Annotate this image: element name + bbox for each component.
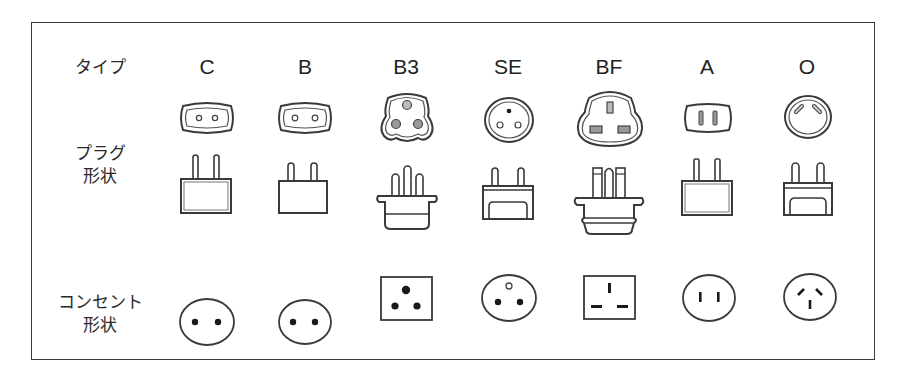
type-label-o: O: [767, 55, 847, 79]
type-label-bf: BF: [569, 55, 649, 79]
plug-side-c: [180, 153, 234, 215]
row-label-outlet-line2: 形状: [45, 314, 155, 337]
plug-side-b: [278, 161, 332, 215]
row-label-plug-line2: 形状: [60, 165, 140, 188]
outlet-square-rect-hole-icon: [583, 275, 637, 321]
type-label-se: SE: [468, 55, 548, 79]
plug-side-three-flat-pin-icon: [572, 166, 646, 236]
plug-face-bf: [575, 88, 645, 148]
plug-side-bf: [572, 166, 646, 236]
outlet-c: [178, 297, 236, 347]
row-label-type: タイプ: [60, 56, 140, 79]
plug-face-three-pin-icon: [378, 90, 436, 144]
outlet-b: [277, 298, 333, 346]
row-label-outlet-shape: コンセント 形状: [45, 291, 155, 337]
outlet-square-three-hole-icon: [380, 276, 434, 322]
plug-face-b3: [378, 90, 436, 144]
plug-side-b3: [375, 164, 439, 232]
plug-face-round-icon: [483, 96, 535, 144]
outlet-round-angled-slot-icon: [782, 272, 838, 322]
plug-type-table-frame: [31, 22, 875, 360]
outlet-round-three-hole-icon: [480, 273, 538, 323]
plug-side-grounded-icon: [783, 161, 835, 217]
plug-face-c: [177, 100, 237, 136]
row-label-plug-shape: プラグ 形状: [60, 142, 140, 188]
type-label-c: C: [167, 55, 247, 79]
plug-side-two-pin-icon: [180, 153, 234, 215]
outlet-round-slot-icon: [681, 273, 737, 323]
outlet-se: [480, 273, 538, 323]
row-label-outlet-line1: コンセント: [45, 291, 155, 314]
plug-face-b: [275, 100, 335, 136]
plug-side-a: [681, 157, 735, 217]
plug-face-oval-icon: [275, 100, 335, 136]
plug-side-grounded-icon: [482, 166, 536, 222]
plug-face-o: [783, 94, 833, 140]
outlet-b3: [380, 276, 434, 322]
outlet-a: [681, 273, 737, 323]
plug-face-three-flat-pin-icon: [575, 88, 645, 148]
plug-face-flat-pin-icon: [682, 103, 734, 133]
plug-face-se: [483, 96, 535, 144]
plug-side-se: [482, 166, 536, 222]
outlet-o: [782, 272, 838, 322]
plug-side-o: [783, 161, 835, 217]
type-label-a: A: [667, 55, 747, 79]
plug-side-two-pin-icon: [278, 161, 332, 215]
outlet-bf: [583, 275, 637, 321]
type-label-b: B: [265, 55, 345, 79]
plug-face-angled-pin-icon: [783, 94, 833, 140]
plug-face-a: [682, 103, 734, 133]
row-label-plug-line1: プラグ: [60, 142, 140, 165]
type-label-b3: B3: [366, 55, 446, 79]
plug-side-two-pin-icon: [681, 157, 735, 217]
outlet-round-two-hole-icon: [277, 298, 333, 346]
outlet-round-two-hole-icon: [178, 297, 236, 347]
plug-face-oval-icon: [177, 100, 237, 136]
plug-side-three-pin-icon: [375, 164, 439, 232]
